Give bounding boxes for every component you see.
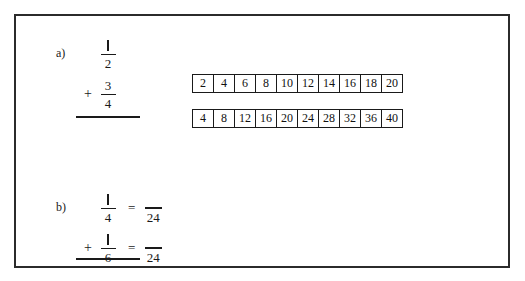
problem-b-answer-1: 24 — [143, 191, 163, 225]
digit-one-stroke-icon — [107, 40, 109, 51]
problem-b-equals-2: = — [128, 240, 135, 256]
problem-b-sum-rule — [76, 258, 140, 260]
problem-a-fraction-1-numerator — [107, 38, 109, 53]
problem-a-term-2-row: + 3 4 — [78, 74, 118, 114]
worksheet-page: a) 2 + 3 4 — [0, 0, 525, 281]
problem-b-answer-2: 24 — [143, 231, 163, 265]
digit-one-stroke-icon — [107, 194, 109, 205]
strip-cell[interactable]: 16 — [255, 109, 277, 128]
strip-cell[interactable]: 4 — [213, 74, 235, 93]
fraction-bar — [145, 207, 162, 209]
fraction-bar — [101, 94, 116, 95]
strip-cell[interactable]: 16 — [339, 74, 361, 93]
problem-b-expression: 4 = 24 + 6 = — [78, 188, 163, 268]
digit-one-stroke-icon — [107, 234, 109, 245]
problem-b-fraction-2-numerator — [107, 232, 109, 247]
fraction-bar — [145, 247, 162, 249]
problem-b-fraction-1: 4 — [98, 192, 118, 225]
problem-b-answer-2-denominator: 24 — [147, 250, 160, 265]
problem-a-term-1-row: 2 — [78, 34, 118, 74]
problem-a-fraction-2-numerator: 3 — [105, 78, 112, 93]
problem-b-fraction-1-numerator — [107, 192, 109, 207]
strip-cell[interactable]: 20 — [276, 109, 298, 128]
strip-cell[interactable]: 12 — [234, 109, 256, 128]
problem-b-fraction-2: 6 — [98, 232, 118, 265]
strip-cell[interactable]: 32 — [339, 109, 361, 128]
strip-cell[interactable]: 40 — [381, 109, 403, 128]
problem-a-strip-multiples-of-2: 2 4 6 8 10 12 14 16 18 20 — [192, 74, 403, 93]
strip-cell[interactable]: 14 — [318, 74, 340, 93]
strip-cell[interactable]: 8 — [213, 109, 235, 128]
worksheet-frame: a) 2 + 3 4 — [14, 14, 510, 268]
strip-cell[interactable]: 6 — [234, 74, 256, 93]
problem-a-strip-multiples-of-4: 4 8 12 16 20 24 28 32 36 40 — [192, 109, 403, 128]
strip-cell[interactable]: 12 — [297, 74, 319, 93]
strip-cell[interactable]: 2 — [192, 74, 214, 93]
problem-a-fraction-1-denominator: 2 — [105, 56, 112, 71]
strip-cell[interactable]: 24 — [297, 109, 319, 128]
problem-b-plus-sign: + — [78, 241, 98, 255]
strip-cell[interactable]: 10 — [276, 74, 298, 93]
problem-a-fraction-2: 3 4 — [98, 78, 118, 111]
strip-cell[interactable]: 20 — [381, 74, 403, 93]
problem-b-term-2-row: + 6 = 24 — [78, 228, 163, 268]
fraction-bar — [101, 54, 116, 55]
problem-b-equals-1: = — [128, 200, 135, 216]
strip-cell[interactable]: 28 — [318, 109, 340, 128]
fraction-bar — [101, 208, 116, 209]
problem-a-plus-sign: + — [78, 87, 98, 101]
strip-cell[interactable]: 4 — [192, 109, 214, 128]
problem-a-fraction-1: 2 — [98, 38, 118, 71]
problem-b-answer-1-denominator: 24 — [147, 210, 160, 225]
problem-b-fraction-2-denominator: 6 — [105, 250, 112, 265]
problem-b-term-1-row: 4 = 24 — [78, 188, 163, 228]
fraction-bar — [101, 248, 116, 249]
problem-b-label: b) — [56, 200, 66, 215]
problem-b: b) 4 = 24 + — [16, 174, 512, 266]
problem-a-sum-rule — [76, 116, 140, 118]
strip-cell[interactable]: 18 — [360, 74, 382, 93]
problem-a-expression: 2 + 3 4 — [78, 34, 118, 114]
problem-b-fraction-1-denominator: 4 — [105, 210, 112, 225]
problem-a-fraction-2-denominator: 4 — [105, 96, 112, 111]
problem-a-label: a) — [56, 46, 65, 61]
strip-cell[interactable]: 36 — [360, 109, 382, 128]
problem-a: a) 2 + 3 4 — [16, 24, 512, 134]
strip-cell[interactable]: 8 — [255, 74, 277, 93]
